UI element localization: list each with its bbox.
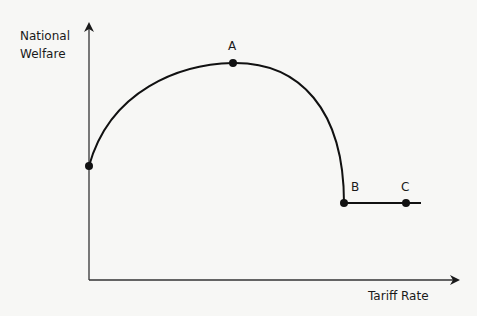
- point-a: [229, 59, 237, 67]
- point-b: [340, 199, 348, 207]
- point-origin: [85, 162, 93, 170]
- x-axis-label: Tariff Rate: [367, 289, 429, 303]
- point-a-label: A: [228, 39, 237, 53]
- y-axis-label-line1: National: [20, 29, 70, 43]
- point-c: [402, 199, 410, 207]
- point-b-label: B: [351, 180, 359, 194]
- y-axis-label-line2: Welfare: [20, 47, 66, 61]
- tariff-welfare-diagram: National Welfare Tariff Rate A B C: [0, 0, 477, 316]
- diagram-svg: National Welfare Tariff Rate A B C: [0, 0, 477, 316]
- welfare-curve: [89, 63, 421, 203]
- point-c-label: C: [401, 180, 409, 194]
